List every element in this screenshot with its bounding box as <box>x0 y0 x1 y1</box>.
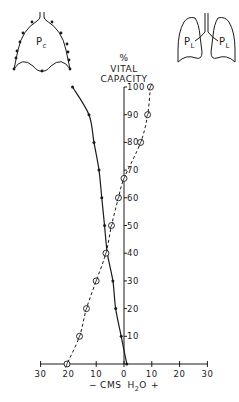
y-axis-title-line1: VITAL <box>110 64 137 74</box>
y-tick-label: 90 <box>127 110 139 120</box>
x-tick-label: 30 <box>35 369 47 379</box>
x-tick-label: 10 <box>146 369 158 379</box>
chest-wall-point <box>92 141 95 144</box>
y-axis-percent: % <box>119 53 128 63</box>
x-tick-label: 30 <box>201 369 213 379</box>
lung-pressure-label-right: PL <box>219 36 230 50</box>
chest-wall-point <box>97 169 100 172</box>
chest-wall-point <box>125 363 128 366</box>
y-tick-label: 50 <box>127 221 139 231</box>
pressure-volume-chart: Pc PL PL % VITAL CAPACITY 30201001020301… <box>0 0 239 402</box>
y-tick-label: 80 <box>127 137 139 147</box>
y-tick-label: 20 <box>127 304 139 314</box>
axes: 3020100102030102030405060708090100 <box>35 82 214 379</box>
chest-wall-curve <box>73 87 127 364</box>
x-tick-label: 20 <box>62 369 74 379</box>
chest-wall-point <box>114 307 117 310</box>
y-tick-label: 70 <box>127 165 139 175</box>
lung-pressure-label-left: PL <box>184 36 195 50</box>
y-tick-label: 10 <box>127 331 139 341</box>
chest-wall-point <box>111 279 114 282</box>
chest-wall-point <box>103 224 106 227</box>
x-axis-title: −CMSH2O+ <box>89 380 159 393</box>
x-tick-label: 10 <box>90 369 102 379</box>
chest-wall-point <box>120 335 123 338</box>
chest-wall-point <box>71 86 74 89</box>
y-tick-label: 30 <box>127 276 139 286</box>
y-tick-label: 40 <box>127 248 139 258</box>
x-tick-label: 0 <box>121 369 127 379</box>
chest-wall-point <box>100 196 103 199</box>
y-tick-label: 100 <box>127 82 145 92</box>
x-tick-label: 20 <box>174 369 186 379</box>
chest-wall-point <box>87 113 90 116</box>
chest-pressure-label: Pc <box>36 36 47 50</box>
data-series <box>64 84 153 368</box>
y-tick-label: 60 <box>127 193 139 203</box>
